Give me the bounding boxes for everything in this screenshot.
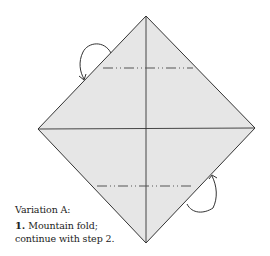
step-text-line2: continue with step 2.	[15, 233, 114, 244]
step-text-line1: Mountain fold;	[28, 220, 98, 231]
variation-title: Variation A:	[15, 203, 70, 216]
paper-square	[38, 16, 255, 243]
origami-diagram	[0, 0, 270, 256]
step-number: 1.	[15, 220, 25, 231]
step-instruction: 1.Mountain fold; continue with step 2.	[15, 219, 114, 245]
